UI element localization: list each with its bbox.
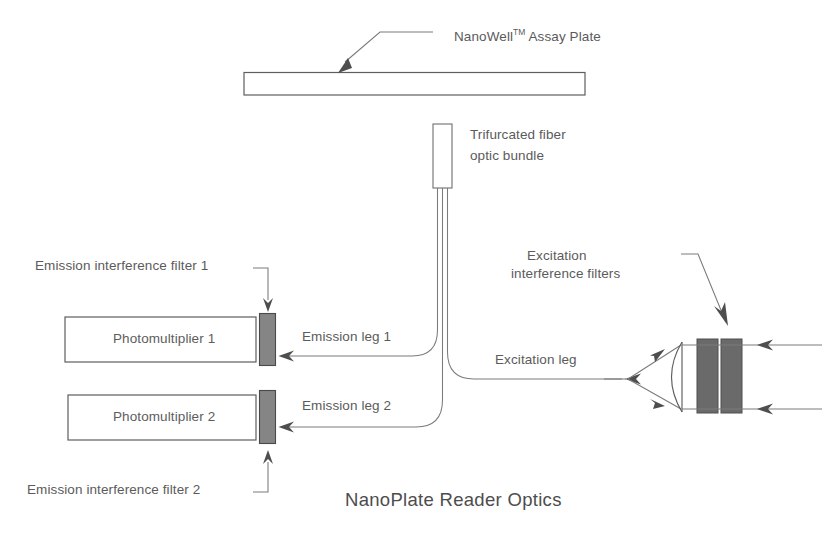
assay-plate-leader bbox=[345, 32, 433, 62]
emission-leg-1-label: Emission leg 1 bbox=[302, 329, 391, 345]
assay-plate-label-trademark: TM bbox=[513, 27, 525, 37]
emission-filter-1-label: Emission interference filter 1 bbox=[35, 258, 208, 274]
emission-filter-2-arrowhead bbox=[263, 450, 273, 464]
emission-filter-2-leader bbox=[253, 462, 268, 492]
excitation-leg-label: Excitation leg bbox=[495, 352, 577, 368]
assay-plate-label-rest: Assay Plate bbox=[525, 29, 601, 44]
fiber-emission-leg-2 bbox=[281, 188, 443, 427]
excitation-filters-label-line2: interference filters bbox=[511, 266, 620, 282]
emission-leg-2-label: Emission leg 2 bbox=[302, 398, 391, 414]
fiber-excitation-leg bbox=[448, 188, 623, 379]
excitation-filter-b-body bbox=[721, 339, 742, 413]
emission-filter-1-arrowhead bbox=[263, 298, 273, 312]
assay-plate-body bbox=[244, 73, 585, 96]
emission-filter-2-body bbox=[260, 391, 276, 444]
fiber-bundle-label-line1: Trifurcated fiber bbox=[470, 127, 566, 143]
emission-filter-1-leader bbox=[253, 268, 268, 300]
lens-curved-face bbox=[672, 342, 683, 412]
excitation-filter-a-body bbox=[697, 339, 718, 413]
cone-ray-lower-arrowhead bbox=[650, 399, 665, 409]
emission-filter-1-body bbox=[260, 314, 276, 366]
fiber-bundle-label-line2: optic bundle bbox=[470, 148, 544, 164]
photomultiplier-1-label: Photomultiplier 1 bbox=[113, 331, 215, 347]
excitation-apex-arrowhead bbox=[625, 374, 641, 385]
photomultiplier-2-label: Photomultiplier 2 bbox=[113, 409, 215, 425]
emission-filter-2-label: Emission interference filter 2 bbox=[27, 482, 200, 498]
assay-plate-label: NanoWellTM Assay Plate bbox=[454, 24, 601, 45]
fiber-ferrule bbox=[433, 124, 452, 188]
assay-plate-arrowhead bbox=[338, 58, 352, 73]
assay-plate-label-main: NanoWell bbox=[454, 29, 513, 44]
figure-canvas: NanoWellTM Assay Plate Trifurcated fiber… bbox=[0, 0, 830, 542]
figure-caption: NanoPlate Reader Optics bbox=[345, 489, 562, 511]
excitation-filters-label-line1: Excitation bbox=[527, 248, 587, 264]
excitation-filters-arrowhead bbox=[714, 302, 728, 326]
